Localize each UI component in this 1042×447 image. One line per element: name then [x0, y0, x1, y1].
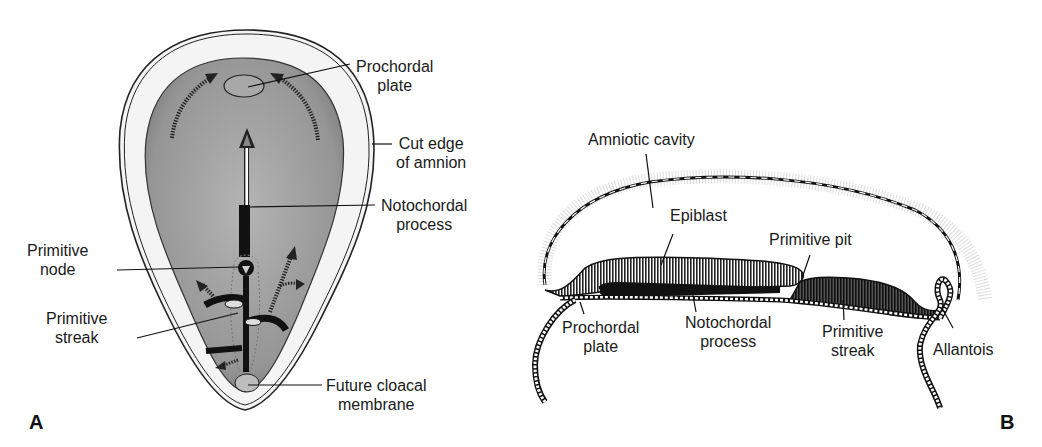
label-a-primitive-streak: Primitive streak — [46, 309, 107, 347]
label-line: plate — [562, 337, 639, 356]
label-b-allantois: Allantois — [933, 340, 993, 359]
label-line: membrane — [326, 395, 427, 414]
label-a-prochordal-plate: Prochordal plate — [356, 57, 433, 95]
embryo-figure: Prochordal plate Cut edge of amnion Noto… — [0, 0, 1042, 447]
label-line: Notochordal — [685, 313, 771, 332]
notochordal-process-shape — [239, 205, 250, 257]
label-line: Primitive — [27, 241, 88, 260]
label-line: Notochordal — [381, 196, 467, 215]
cloacal-membrane-shape — [235, 374, 259, 392]
label-b-primitive-streak: Primitive streak — [822, 322, 883, 360]
label-b-notochordal-process: Notochordal process — [685, 313, 771, 351]
label-line: streak — [822, 341, 883, 360]
label-line: process — [381, 215, 467, 234]
prochordal-plate-shape — [224, 75, 264, 97]
label-b-epiblast: Epiblast — [670, 206, 727, 225]
label-a-notochordal-process: Notochordal process — [381, 196, 467, 234]
label-line: streak — [46, 328, 107, 347]
label-line: plate — [356, 76, 433, 95]
label-line: Prochordal — [356, 57, 433, 76]
label-line: Prochordal — [562, 318, 639, 337]
primitive-streak-section — [790, 277, 940, 318]
label-line: of amnion — [396, 153, 466, 172]
panel-letter-b: B — [1000, 411, 1014, 434]
label-line: Primitive — [822, 322, 883, 341]
label-b-primitive-pit: Primitive pit — [769, 230, 852, 249]
panel-a-artwork — [0, 0, 1042, 447]
label-line: Primitive — [46, 309, 107, 328]
label-line: process — [685, 332, 771, 351]
label-line: node — [27, 260, 88, 279]
label-a-cut-edge-amnion: Cut edge of amnion — [396, 134, 466, 172]
label-line: Cut edge — [396, 134, 466, 153]
label-a-future-cloacal-membrane: Future cloacal membrane — [326, 376, 427, 414]
label-b-prochordal-plate: Prochordal plate — [562, 318, 639, 356]
label-a-primitive-node: Primitive node — [27, 241, 88, 279]
label-line: Future cloacal — [326, 376, 427, 395]
label-b-amniotic-cavity: Amniotic cavity — [588, 130, 695, 149]
panel-letter-a: A — [29, 411, 43, 434]
